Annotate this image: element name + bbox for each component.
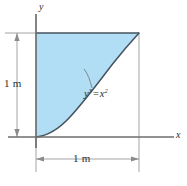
horizontal-dimension-label: 1 m (73, 153, 91, 164)
x-axis-label: x (176, 130, 180, 140)
arrowhead-left (36, 156, 44, 161)
arrowhead-right (131, 156, 139, 161)
arrowhead-down (14, 129, 19, 137)
vertical-dimension-label: 1 m (4, 78, 22, 89)
equation-operator: = (92, 88, 100, 99)
figure-container: y x 1 m 1 m y3=x2 (0, 0, 187, 186)
arrowhead-up (14, 33, 19, 41)
curve-equation-label: y3=x2 (84, 89, 108, 100)
shaded-area (36, 33, 139, 137)
equation-x-exponent: 2 (105, 87, 108, 94)
y-axis-label: y (39, 2, 43, 12)
